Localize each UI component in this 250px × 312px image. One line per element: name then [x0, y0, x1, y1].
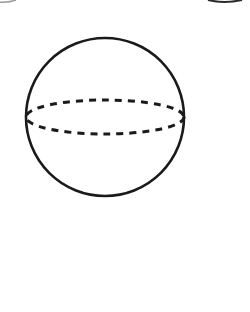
equator-dashed-ellipse [26, 100, 184, 134]
top-left-fragment [0, 0, 16, 2]
sphere-outline [26, 38, 184, 196]
top-right-fragment [208, 0, 242, 2]
sphere-figure [0, 0, 250, 312]
diagram-canvas: Outline of a sphere with a dashed equato… [0, 0, 250, 312]
